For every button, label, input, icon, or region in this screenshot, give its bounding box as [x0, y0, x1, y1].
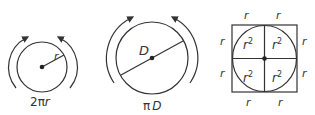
circumference-diameter-figure: D πD	[106, 18, 197, 113]
bottom-right-r: r	[278, 96, 284, 109]
center-dot	[40, 65, 45, 70]
quadrant-r2-tl: r2	[243, 37, 253, 52]
center-dot	[150, 56, 155, 61]
right-top-r: r	[302, 35, 308, 48]
caption-2pir: 2πr	[30, 95, 51, 109]
diameter-label: D	[139, 43, 149, 58]
caption-piD: πD	[143, 99, 161, 113]
area-square-figure: r r r r r r r r r2 r2 r2 r2	[220, 9, 308, 109]
top-left-r: r	[244, 9, 250, 22]
arrow-arc-right	[174, 18, 198, 83]
circumference-radius-figure: r 2πr	[9, 38, 78, 109]
center-dot	[262, 56, 267, 61]
area-circumference-diagram: r 2πr D πD r r r r r r r r r2 r2 r2 r2	[0, 0, 315, 115]
radius-label: r	[54, 50, 60, 63]
radius-line	[42, 55, 64, 67]
bottom-left-r: r	[246, 96, 252, 109]
left-top-r: r	[220, 35, 226, 48]
quadrant-r2-tr: r2	[272, 37, 282, 52]
top-right-r: r	[276, 9, 282, 22]
right-bottom-r: r	[302, 67, 308, 80]
left-bottom-r: r	[220, 67, 226, 80]
quadrant-r2-bl: r2	[243, 70, 253, 85]
quadrant-r2-br: r2	[272, 70, 282, 85]
